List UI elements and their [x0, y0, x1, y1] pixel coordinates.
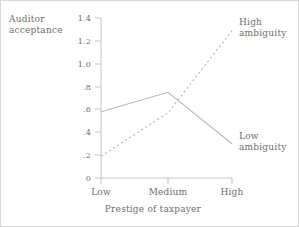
series-line-high-ambiguity [101, 31, 232, 157]
legend-low-line-1: Low [239, 131, 297, 142]
x-axis-ticks [101, 178, 232, 184]
y-tick-label-1-0: 1.0 [65, 60, 91, 69]
y-tick-label-0: 0 [65, 174, 91, 183]
y-axis-title-line-2: acceptance [9, 25, 79, 36]
chart-figure: Auditor acceptance 1.4 1.2 1.0 .8 .6 .4 … [0, 0, 299, 227]
y-axis-ticks [95, 18, 101, 178]
y-tick-label-0-8: .8 [65, 83, 91, 92]
legend-low-line-2: ambiguity [239, 142, 297, 153]
series-line-low-ambiguity [101, 92, 232, 143]
y-tick-label-1-4: 1.4 [65, 14, 91, 23]
y-tick-label-0-6: .6 [65, 105, 91, 114]
legend-label-low-ambiguity: Low ambiguity [239, 131, 297, 153]
legend-high-line-1: High [239, 17, 297, 28]
y-tick-label-0-4: .4 [65, 128, 91, 137]
y-tick-label-0-2: .2 [65, 151, 91, 160]
legend-label-high-ambiguity: High ambiguity [239, 17, 297, 39]
x-axis-title: Prestige of taxpayer [73, 204, 233, 215]
x-tick-label-high: High [212, 187, 252, 197]
x-tick-label-low: Low [81, 187, 121, 197]
y-tick-label-1-2: 1.2 [65, 37, 91, 46]
legend-high-line-2: ambiguity [239, 28, 297, 39]
x-tick-label-medium: Medium [140, 187, 196, 197]
